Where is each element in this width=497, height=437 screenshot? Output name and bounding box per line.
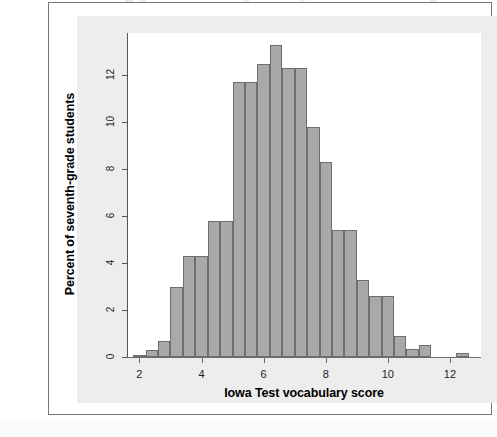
histogram-bar bbox=[183, 256, 195, 357]
x-axis-title: Iowa Test vocabulary score bbox=[127, 386, 481, 400]
histogram-bar bbox=[406, 349, 418, 357]
x-axis-tick bbox=[139, 358, 140, 363]
histogram-bar bbox=[456, 353, 468, 357]
plot-area: 024681012 24681012 Iowa Test vocabulary … bbox=[127, 33, 481, 358]
histogram-bar bbox=[195, 256, 207, 357]
histogram-bar bbox=[295, 68, 307, 357]
y-axis-tick-label: 2 bbox=[105, 301, 116, 319]
x-axis-tick bbox=[388, 358, 389, 363]
histogram-bar bbox=[146, 350, 158, 357]
histogram-bars bbox=[127, 33, 481, 357]
y-axis-tick bbox=[122, 122, 127, 123]
y-axis-tick bbox=[122, 75, 127, 76]
x-axis-tick bbox=[450, 358, 451, 363]
histogram-bar bbox=[170, 287, 182, 357]
histogram-bar bbox=[220, 221, 232, 357]
histogram-bar bbox=[245, 82, 257, 357]
histogram-bar bbox=[320, 162, 332, 357]
histogram-bar bbox=[332, 230, 344, 357]
histogram-bar bbox=[282, 68, 294, 357]
y-axis-tick bbox=[122, 263, 127, 264]
y-axis-tick-label: 10 bbox=[105, 113, 116, 131]
histogram-bar bbox=[419, 345, 431, 357]
x-axis-tick-label: 10 bbox=[378, 368, 398, 380]
x-axis-tick-label: 8 bbox=[316, 368, 336, 380]
scan-artifact-bottom bbox=[0, 420, 496, 437]
x-axis-tick bbox=[264, 358, 265, 363]
histogram-bar bbox=[344, 230, 356, 357]
histogram-bar bbox=[357, 280, 369, 357]
x-axis-tick-label: 12 bbox=[440, 368, 460, 380]
histogram-bar bbox=[257, 64, 269, 357]
y-axis-tick bbox=[122, 310, 127, 311]
x-axis-tick-label: 4 bbox=[192, 368, 212, 380]
histogram-bar bbox=[394, 336, 406, 357]
x-axis-line bbox=[127, 357, 481, 358]
y-axis-tick bbox=[122, 216, 127, 217]
figure-border-frame: 024681012 24681012 Iowa Test vocabulary … bbox=[48, 2, 492, 415]
y-axis-tick-label: 8 bbox=[105, 160, 116, 178]
histogram-bar bbox=[307, 127, 319, 357]
y-axis-title: Percent of seventh-grade students bbox=[63, 44, 77, 344]
histogram-bar bbox=[369, 296, 381, 357]
x-axis-tick bbox=[202, 358, 203, 363]
x-axis-tick-label: 2 bbox=[129, 368, 149, 380]
y-axis-tick-label: 4 bbox=[105, 254, 116, 272]
x-axis-tick-label: 6 bbox=[254, 368, 274, 380]
histogram-bar bbox=[233, 82, 245, 357]
y-axis-tick-label: 12 bbox=[105, 66, 116, 84]
histogram-bar bbox=[270, 45, 282, 357]
histogram-bar bbox=[208, 221, 220, 357]
y-axis-tick bbox=[122, 169, 127, 170]
y-axis-tick-label: 6 bbox=[105, 207, 116, 225]
histogram-bar bbox=[158, 341, 170, 357]
y-axis-tick bbox=[122, 357, 127, 358]
histogram-bar bbox=[133, 355, 145, 357]
histogram-bar bbox=[382, 296, 394, 357]
x-axis-tick bbox=[326, 358, 327, 363]
y-axis-tick-label: 0 bbox=[105, 348, 116, 366]
